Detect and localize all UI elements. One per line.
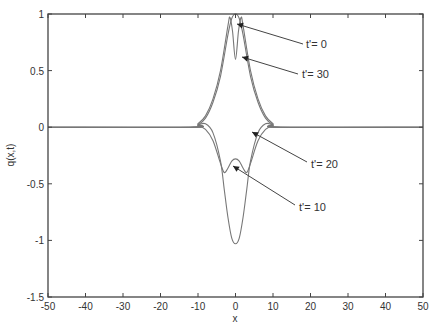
x-tick-label: 40 bbox=[380, 301, 392, 312]
x-tick-label: 30 bbox=[342, 301, 354, 312]
curve-t30 bbox=[48, 17, 423, 127]
x-tick-label: 50 bbox=[417, 301, 429, 312]
annotation-t20: t'= 20 bbox=[311, 158, 338, 170]
x-tick-label: -10 bbox=[191, 301, 206, 312]
y-tick-label: 0.5 bbox=[30, 66, 44, 77]
annotation-t10: t'= 10 bbox=[299, 201, 326, 213]
arrowhead-icon bbox=[233, 166, 240, 172]
y-tick-label: -0.5 bbox=[27, 179, 45, 190]
plot-curves bbox=[48, 14, 423, 244]
line-chart: -50-40-30-20-1001020304050-1.5-1-0.500.5… bbox=[0, 0, 435, 331]
annotation-t30: t'= 30 bbox=[302, 68, 329, 80]
curve-t0 bbox=[48, 14, 423, 127]
x-tick-label: -30 bbox=[116, 301, 131, 312]
plot-frame bbox=[48, 14, 423, 297]
x-tick-label: -20 bbox=[153, 301, 168, 312]
x-tick-label: 20 bbox=[305, 301, 317, 312]
y-tick-label: -1 bbox=[35, 235, 44, 246]
curve-t10 bbox=[48, 123, 423, 243]
x-tick-label: 0 bbox=[233, 301, 239, 312]
curve-t20 bbox=[48, 126, 423, 173]
x-tick-label: 10 bbox=[267, 301, 279, 312]
y-tick-label: 1 bbox=[38, 9, 44, 20]
x-tick-label: -40 bbox=[78, 301, 93, 312]
axis-ticks: -50-40-30-20-1001020304050-1.5-1-0.500.5… bbox=[27, 9, 429, 312]
x-axis-label: x bbox=[233, 313, 238, 324]
y-tick-label: -1.5 bbox=[27, 292, 45, 303]
y-tick-label: 0 bbox=[38, 122, 44, 133]
y-axis-label: q(x,t) bbox=[5, 144, 16, 167]
arrowhead-icon bbox=[237, 23, 244, 29]
annotations: t'= 0t'= 30t'= 20t'= 10 bbox=[233, 23, 338, 213]
annotation-t0: t'= 0 bbox=[306, 38, 327, 50]
